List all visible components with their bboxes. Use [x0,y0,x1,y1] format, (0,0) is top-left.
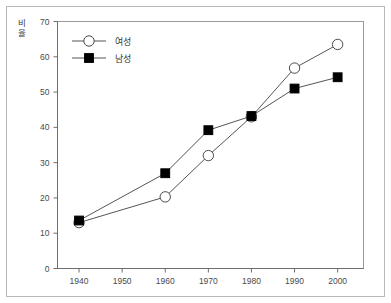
x-tick-label: 1980 [242,276,261,286]
y-tick-label: 20 [40,193,50,203]
x-tick-label: 1960 [156,276,175,286]
line-chart: 010203040506070 194019501960197019801990… [0,0,391,303]
chart-figure: 010203040506070 194019501960197019801990… [0,0,391,303]
x-tick-label: 1970 [199,276,218,286]
y-tick-label: 40 [40,122,50,132]
data-point-open-circle [203,150,213,160]
y-tick-label: 10 [40,228,50,238]
data-point-filled-square [247,112,256,121]
data-point-open-circle [289,63,299,73]
legend-marker-filled-square-icon [85,54,94,63]
legend-marker-open-circle-icon [84,36,94,46]
data-point-filled-square [75,216,84,225]
y-tick-label: 0 [45,264,50,274]
x-tick-label: 1950 [113,276,132,286]
y-axis-label-char-2: 율 [18,28,26,38]
data-point-filled-square [290,84,299,93]
legend-label-female: 여성 [115,36,131,47]
data-point-filled-square [161,169,170,178]
data-point-filled-square [204,126,213,135]
data-point-open-circle [160,192,170,202]
y-tick-label: 60 [40,52,50,62]
x-tick-label: 2000 [328,276,347,286]
y-axis-label-char-1: 비 [18,18,26,28]
y-axis-ticks: 010203040506070 [40,17,57,274]
plot-area [58,22,364,269]
data-point-filled-square [333,73,342,82]
y-tick-label: 30 [40,158,50,168]
legend-label-male: 남성 [115,54,131,64]
y-axis-label: 비 율 [18,18,26,38]
data-point-open-circle [332,39,342,49]
x-tick-label: 1940 [70,276,89,286]
y-tick-label: 50 [40,87,50,97]
x-axis-ticks: 1940195019601970198019902000 [70,269,348,286]
x-tick-label: 1990 [285,276,304,286]
y-tick-label: 70 [40,17,50,27]
